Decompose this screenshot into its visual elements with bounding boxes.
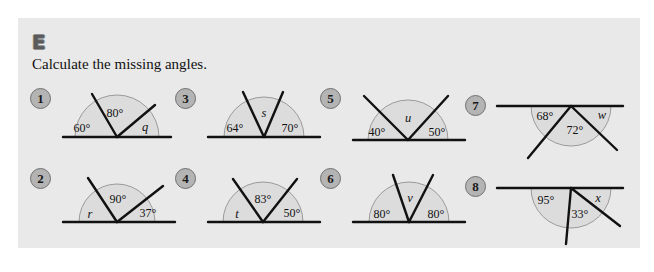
- angle-diagram: [30, 160, 180, 242]
- angle-label: 50°: [284, 206, 301, 221]
- angle-label: 68°: [537, 109, 554, 124]
- section-letter-badge: E: [32, 30, 45, 54]
- angle-label: 37°: [140, 206, 157, 221]
- angle-diagram: [175, 160, 325, 242]
- unknown-angle-label: s: [262, 106, 267, 121]
- worksheet-panel: E Calculate the missing angles. 1 60° 80…: [18, 18, 640, 248]
- problem-4: 4 t 83° 50°: [175, 160, 325, 242]
- unknown-angle-label: x: [595, 191, 601, 206]
- problem-5: 5 40° u 50°: [320, 80, 470, 162]
- angle-label: 64°: [227, 121, 244, 136]
- angle-label: 70°: [282, 121, 299, 136]
- angle-label: 80°: [374, 207, 391, 222]
- problem-2: 2 r 90° 37°: [30, 160, 180, 242]
- angle-label: 90°: [110, 192, 127, 207]
- angle-diagram: [320, 80, 470, 162]
- unknown-angle-label: w: [598, 108, 606, 123]
- problem-6: 6 80° v 80°: [320, 160, 470, 242]
- angle-label: 33°: [572, 207, 589, 222]
- angle-diagram: [320, 160, 470, 242]
- instruction-text: Calculate the missing angles.: [32, 56, 207, 73]
- angle-label: 95°: [538, 193, 555, 208]
- unknown-angle-label: r: [88, 207, 93, 222]
- unknown-angle-label: u: [405, 111, 411, 126]
- problem-7: 7 68° 72° w: [465, 80, 635, 162]
- unknown-angle-label: v: [407, 191, 413, 206]
- unknown-angle-label: q: [142, 120, 148, 135]
- angle-label: 80°: [107, 106, 124, 121]
- angle-label: 83°: [255, 192, 272, 207]
- problem-8: 8 95° 33° x: [465, 164, 635, 246]
- angle-label: 80°: [428, 207, 445, 222]
- angle-label: 72°: [567, 123, 584, 138]
- angle-label: 60°: [74, 121, 91, 136]
- angle-diagram: [30, 80, 180, 162]
- angle-label: 50°: [429, 125, 446, 140]
- problem-1: 1 60° 80° q: [30, 80, 180, 162]
- angle-diagram: [175, 80, 325, 162]
- unknown-angle-label: t: [235, 207, 238, 222]
- angle-label: 40°: [369, 125, 386, 140]
- problem-3: 3 64° s 70°: [175, 80, 325, 162]
